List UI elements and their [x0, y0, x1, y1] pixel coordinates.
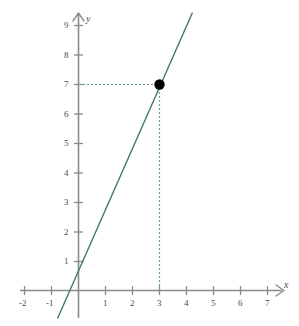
y-tick-label-4: 4	[64, 169, 69, 178]
x-tick-label-1: 1	[103, 299, 108, 308]
x-tick-label-6: 6	[238, 299, 243, 308]
y-tick-label-7: 7	[64, 80, 69, 89]
x-tick-label-4: 4	[184, 299, 189, 308]
y-tick-label-5: 5	[64, 139, 69, 148]
coordinate-plane-svg	[0, 0, 299, 326]
y-tick-label-6: 6	[64, 110, 69, 119]
y-tick-label-9: 9	[64, 21, 69, 30]
x-tick-label-5: 5	[211, 299, 216, 308]
y-tick-label-1: 1	[64, 257, 69, 266]
x-tick-label-3: 3	[157, 299, 162, 308]
y-tick-label-2: 2	[64, 228, 69, 237]
y-axis-label: y	[86, 14, 90, 24]
graph-figure: -2 -1 1 2 3 4 5 6 7 1 2 3 4 5 6 7 8 9 x …	[0, 0, 299, 326]
x-tick-label-2: 2	[130, 299, 135, 308]
y-tick-label-3: 3	[64, 198, 69, 207]
data-point-marker	[154, 79, 164, 89]
x-tick-label--1: -1	[46, 299, 54, 308]
y-tick-label-8: 8	[64, 51, 69, 60]
x-axis-label: x	[284, 280, 288, 290]
x-tick-label-7: 7	[265, 299, 270, 308]
x-tick-label--2: -2	[19, 299, 27, 308]
